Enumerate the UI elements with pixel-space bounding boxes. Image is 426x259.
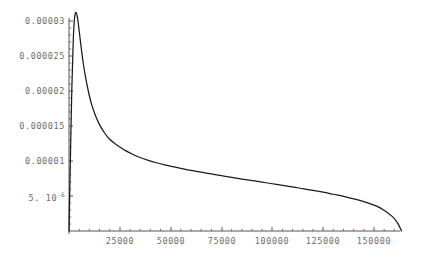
y-axis-tick-label: 0.000025	[19, 52, 65, 61]
data-series-line	[69, 13, 401, 231]
x-axis-tick-label: 150000	[344, 237, 404, 246]
x-axis-ticks	[79, 227, 394, 231]
y-axis-tick-label: 0.00003	[25, 17, 65, 26]
y-axis-tick-label: 5. 10-6	[29, 192, 65, 202]
y-axis-tick-label: 0.00002	[25, 87, 65, 96]
y-label-mantissa: 5. 10	[29, 193, 58, 203]
axes-group	[69, 18, 400, 234]
plot-canvas: 5. 10-60.000010.0000150.000020.0000250.0…	[0, 0, 426, 259]
y-axis-tick-label: 0.000015	[19, 122, 65, 131]
y-label-exponent: -6	[57, 191, 65, 198]
y-axis-tick-label: 0.00001	[25, 157, 65, 166]
